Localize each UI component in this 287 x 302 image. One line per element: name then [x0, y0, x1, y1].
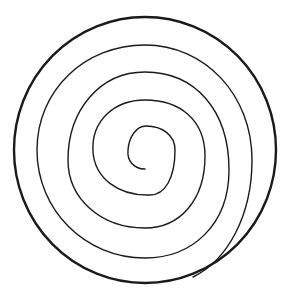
outer-circle [14, 17, 276, 283]
spiral-svg [0, 0, 287, 302]
spiral-diagram [0, 0, 287, 302]
spiral-line [37, 45, 252, 277]
